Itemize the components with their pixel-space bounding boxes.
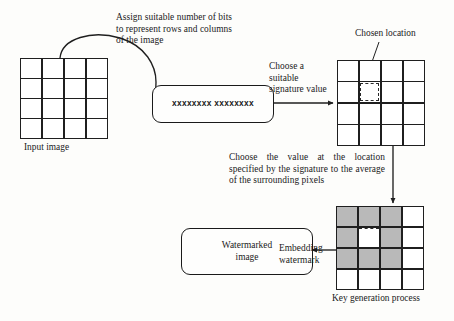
chosen-location-marker <box>360 83 379 101</box>
grid-cell <box>65 79 85 98</box>
annotation-assign-bits: Assign suitable number of bits to repres… <box>116 12 286 47</box>
grid-cell <box>338 104 358 124</box>
grid-cell <box>404 61 424 81</box>
grid-cell <box>43 119 63 138</box>
grid-cell <box>382 82 402 102</box>
grid-cell <box>382 61 402 81</box>
grid-cell <box>403 228 423 247</box>
grid-cell <box>404 104 424 124</box>
grid-cell <box>338 82 358 102</box>
grid-cell <box>382 104 402 124</box>
grid-cell-shaded <box>359 207 379 226</box>
grid-cell <box>21 119 41 138</box>
key-generation-caption: Key generation process <box>332 293 420 303</box>
grid-cell <box>404 82 424 102</box>
grid-cell <box>360 104 380 124</box>
annotation-embedding-watermark: Embedding watermark <box>279 243 343 266</box>
grid-cell <box>404 125 424 145</box>
grid-cell <box>338 61 358 81</box>
annotation-chosen-location: Chosen location <box>355 28 416 38</box>
grid-cell-shaded <box>381 228 401 247</box>
grid-cell-shaded <box>359 249 379 268</box>
grid-cell <box>65 59 85 78</box>
grid-cell-shaded <box>337 207 357 226</box>
grid-cell <box>87 59 107 78</box>
annotation-choose-signature: Choose a suitable signature value <box>269 61 335 96</box>
grid-input-image <box>20 58 108 139</box>
grid-cell <box>403 270 423 289</box>
grid-cell <box>65 119 85 138</box>
grid-cell-center <box>359 228 379 247</box>
grid-cell <box>403 249 423 268</box>
grid-cell <box>65 99 85 118</box>
grid-cell <box>338 125 358 145</box>
grid-cell <box>21 59 41 78</box>
annotation-choose-value: Choose the value at the location specifi… <box>229 152 385 187</box>
grid-cell <box>21 99 41 118</box>
grid-cell <box>403 207 423 226</box>
grid-cell-shaded <box>381 207 401 226</box>
grid-cell <box>381 270 401 289</box>
grid-cell <box>360 125 380 145</box>
grid-cell <box>359 270 379 289</box>
diagram-canvas: Input image Assign suitable number of bi… <box>0 0 454 321</box>
grid-key-generation <box>336 206 424 290</box>
grid-chosen-location <box>337 60 425 146</box>
grid-cell <box>87 79 107 98</box>
grid-cell <box>87 99 107 118</box>
grid-cell <box>43 79 63 98</box>
input-image-caption: Input image <box>24 142 69 152</box>
grid-cell <box>43 59 63 78</box>
grid-cell <box>87 119 107 138</box>
grid-cell-shaded <box>381 249 401 268</box>
grid-cell <box>382 125 402 145</box>
grid-cell <box>21 79 41 98</box>
grid-cell <box>360 61 380 81</box>
key-grid-center-marker <box>359 228 379 229</box>
grid-cell <box>337 270 357 289</box>
signature-value-box: xxxxxxxx xxxxxxxx <box>152 85 274 123</box>
grid-cell <box>43 99 63 118</box>
